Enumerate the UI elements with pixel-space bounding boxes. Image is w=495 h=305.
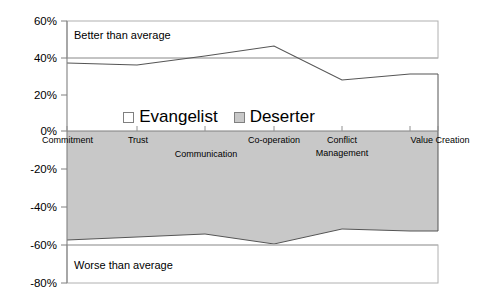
x-label-value-creation: Value Creation (400, 135, 480, 145)
better-than-average-note: Better than average (74, 29, 171, 41)
y-tick-label-40: 40% (2, 52, 57, 64)
filled-square-icon (234, 112, 245, 123)
x-label-communication: Communication (166, 149, 246, 159)
legend-label-evangelist: Evangelist (139, 108, 217, 126)
legend-item-deserter[interactable]: Deserter (234, 108, 315, 126)
x-label-commitment: Commitment (30, 135, 105, 145)
x-label-conflict: Conflict (312, 135, 372, 145)
deserter-area (67, 131, 438, 244)
worse-than-average-note: Worse than average (74, 259, 173, 271)
y-tick-label-60: 60% (2, 15, 57, 27)
hollow-square-icon (123, 112, 134, 123)
y-tick-label-neg20: -20% (2, 163, 57, 175)
x-label-management: Management (312, 148, 372, 158)
legend-item-evangelist[interactable]: Evangelist (123, 108, 217, 126)
y-tick-label-20: 20% (2, 89, 57, 101)
x-label-co-operation: Co-operation (238, 135, 310, 145)
y-tick-label-neg80: -80% (2, 277, 57, 289)
chart-container: 60% 40% 20% 0% -20% -40% -60% -80% Commi… (0, 0, 495, 305)
y-tick-label-neg60: -60% (2, 239, 57, 251)
x-label-trust: Trust (108, 135, 168, 145)
legend-label-deserter: Deserter (250, 108, 315, 126)
y-axis-ticks (61, 21, 67, 283)
y-tick-label-neg40: -40% (2, 201, 57, 213)
chart-legend: Evangelist Deserter (0, 108, 438, 126)
